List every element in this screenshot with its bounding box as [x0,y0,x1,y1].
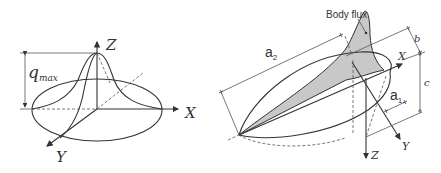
qmax-label: qmax [28,62,58,83]
dashed-left-extension [228,135,239,140]
a2-label: a2 [265,44,278,62]
x-axis-label-right: X [397,50,407,63]
a1-label: a1 [390,87,403,105]
body-flux-label: Body flux [326,9,367,20]
z-axis-label: Z [105,36,117,54]
c-label: c [424,77,430,88]
double-ellipsoid-figure: Body flux a2 a1 b c X Y Z [221,9,430,162]
lower-parallel-line [366,112,422,137]
dashed-internal-2 [366,76,386,137]
body-flux-dot [365,32,368,35]
z-axis-label-right: Z [370,149,379,162]
x-axis-label: X [184,104,197,122]
y-axis-label-right: Y [402,140,411,153]
b-label: b [414,33,420,44]
heat-source-diagram: Z X Y qmax [0,0,441,173]
a2-extension [221,92,239,135]
gaussian-surface-flux-figure: Z X Y qmax [20,36,197,166]
y-axis-label: Y [56,148,68,166]
ellipsoid-dashed-lower [239,135,345,146]
